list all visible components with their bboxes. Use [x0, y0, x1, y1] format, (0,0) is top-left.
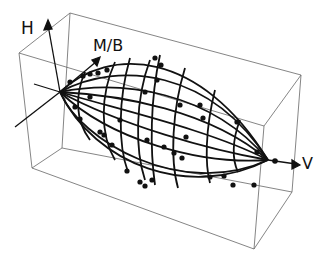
axis-label-h: H	[21, 20, 34, 37]
axis-label-v: V	[302, 156, 313, 172]
diagram-canvas	[0, 0, 325, 261]
axis-label-mb: M/B	[93, 38, 123, 54]
bounding-box	[19, 13, 301, 249]
